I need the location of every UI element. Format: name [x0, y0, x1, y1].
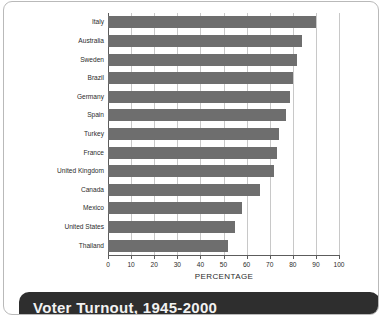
category-label: United States	[14, 223, 104, 231]
bar	[108, 221, 235, 233]
gridline-100	[339, 13, 340, 255]
tick-20	[154, 255, 155, 259]
bar-row	[108, 128, 339, 140]
tick-60	[247, 255, 248, 259]
tick-50	[224, 255, 225, 259]
bar-row	[108, 147, 339, 159]
tick-90	[316, 255, 317, 259]
bar	[108, 165, 274, 177]
tick-label-10: 10	[121, 260, 141, 269]
bar-row	[108, 202, 339, 214]
bar-row	[108, 54, 339, 66]
title-banner: Voter Turnout, 1945-2000	[19, 292, 379, 315]
tick-label-30: 30	[167, 260, 187, 269]
bar-row	[108, 109, 339, 121]
tick-label-100: 100	[329, 260, 349, 269]
category-label: Thailand	[14, 242, 104, 250]
category-label: Turkey	[14, 130, 104, 138]
tick-80	[293, 255, 294, 259]
tick-label-0: 0	[98, 260, 118, 269]
category-label: France	[14, 149, 104, 157]
category-label: Mexico	[14, 204, 104, 212]
bar	[108, 147, 277, 159]
tick-label-70: 70	[260, 260, 280, 269]
chart-card: 0102030405060708090100 PERCENTAGE ItalyA…	[3, 1, 379, 315]
bar	[108, 54, 297, 66]
bar-row	[108, 35, 339, 47]
category-label: Sweden	[14, 56, 104, 64]
tick-label-80: 80	[283, 260, 303, 269]
tick-label-20: 20	[144, 260, 164, 269]
category-label: Canada	[14, 186, 104, 194]
bar-row	[108, 240, 339, 252]
bar-row	[108, 16, 339, 28]
tick-label-60: 60	[237, 260, 257, 269]
category-label: United Kingdom	[14, 167, 104, 175]
tick-30	[177, 255, 178, 259]
bar	[108, 35, 302, 47]
bar	[108, 91, 290, 103]
bar	[108, 72, 293, 84]
bar	[108, 240, 228, 252]
tick-label-40: 40	[190, 260, 210, 269]
bar	[108, 184, 260, 196]
bar	[108, 128, 279, 140]
tick-40	[200, 255, 201, 259]
bar-chart: 0102030405060708090100 PERCENTAGE ItalyA…	[4, 2, 379, 292]
bar-row	[108, 165, 339, 177]
tick-label-90: 90	[306, 260, 326, 269]
bar	[108, 16, 316, 28]
category-label: Spain	[14, 111, 104, 119]
bar	[108, 109, 286, 121]
bar-row	[108, 221, 339, 233]
tick-0	[108, 255, 109, 259]
tick-70	[270, 255, 271, 259]
tick-10	[131, 255, 132, 259]
bar-row	[108, 184, 339, 196]
x-axis-label: PERCENTAGE	[108, 272, 340, 281]
bar	[108, 202, 242, 214]
bar-row	[108, 72, 339, 84]
category-label: Italy	[14, 18, 104, 26]
category-label: Australia	[14, 37, 104, 45]
tick-label-50: 50	[214, 260, 234, 269]
plot-area	[108, 13, 339, 255]
banner-title: Voter Turnout, 1945-2000	[33, 299, 217, 315]
category-label: Brazil	[14, 74, 104, 82]
tick-100	[339, 255, 340, 259]
bar-row	[108, 91, 339, 103]
category-label: Germany	[14, 93, 104, 101]
